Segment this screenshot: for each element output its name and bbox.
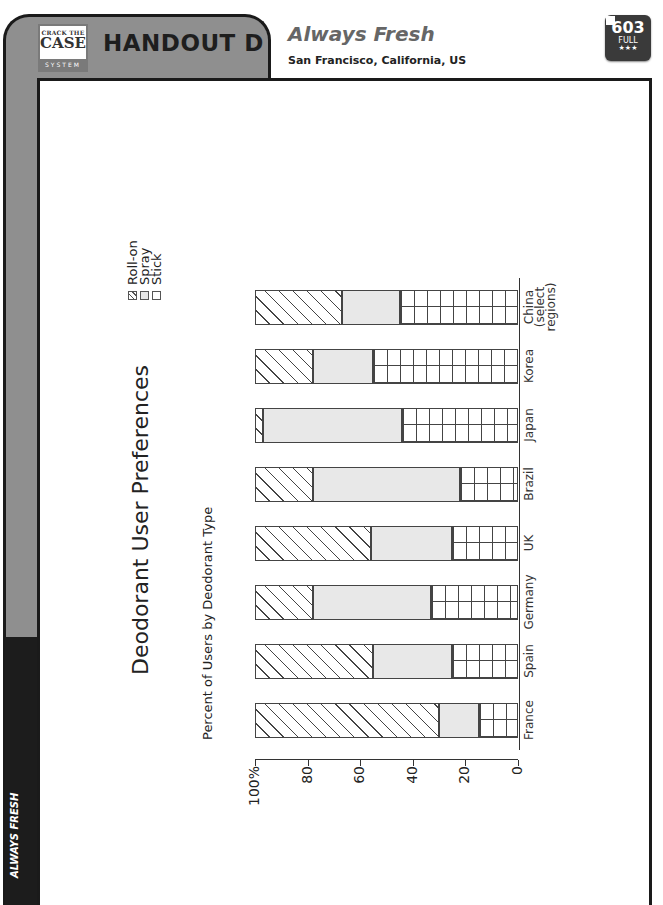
bar-segment-spray [313, 349, 373, 384]
plot-area [255, 278, 518, 750]
x-axis [519, 278, 520, 750]
x-tick-label: Spain [524, 631, 535, 691]
y-tick-label: 20 [456, 766, 472, 806]
bar-segment-spray [342, 290, 400, 325]
crack-the-case-logo: CRACK THE CASE SYSTEM [38, 24, 88, 72]
y-tick-label: 0 [509, 766, 525, 806]
x-tick-label: China(selectregions) [524, 277, 557, 337]
bar-segment-rollon [255, 703, 439, 738]
grid-swatch-icon [152, 291, 161, 300]
legend-item-stick: Stick [150, 240, 162, 300]
bar-segment-stick [400, 290, 518, 325]
bar-segment-rollon [255, 467, 313, 502]
bar-china [255, 290, 518, 325]
bar-segment-stick [460, 467, 518, 502]
hatch-swatch-icon [128, 291, 137, 300]
difficulty-badge: 603 FULL ★★★ [605, 15, 651, 61]
chart-title: Deodorant User Preferences [128, 220, 153, 820]
chart-y-axis-label: Percent of Users by Deodorant Type [200, 507, 215, 740]
x-tick-label: Korea [524, 336, 535, 396]
bar-segment-rollon [255, 408, 263, 443]
badge-corner-icon [606, 16, 615, 25]
x-tick-label: Germany [524, 572, 535, 632]
y-tick-label: 80 [299, 766, 315, 806]
case-title: Always Fresh [288, 22, 435, 46]
bar-segment-rollon [255, 526, 371, 561]
y-tick-label: 100% [246, 766, 262, 806]
x-tick-label: Brazil [524, 454, 535, 514]
logo-line2: CASE [40, 36, 86, 50]
bar-segment-spray [371, 526, 453, 561]
bar-segment-stick [373, 349, 518, 384]
bar-korea [255, 349, 518, 384]
bar-segment-spray [263, 408, 402, 443]
bar-segment-rollon [255, 349, 313, 384]
bar-france [255, 703, 518, 738]
x-tick-label: France [524, 690, 535, 750]
stacked-bar-chart: Deodorant User Preferences Percent of Us… [118, 220, 558, 820]
bar-uk [255, 526, 518, 561]
bar-segment-rollon [255, 644, 373, 679]
badge-stars-icon: ★★★ [605, 45, 651, 52]
bar-segment-rollon [255, 585, 313, 620]
bar-segment-rollon [255, 290, 342, 325]
bar-segment-stick [452, 644, 518, 679]
y-axis [255, 759, 518, 760]
logo-line3: SYSTEM [40, 59, 86, 70]
bar-spain [255, 644, 518, 679]
bar-brazil [255, 467, 518, 502]
bar-segment-spray [313, 585, 431, 620]
bar-germany [255, 585, 518, 620]
chart-legend: Roll-on Spray Stick [126, 240, 162, 300]
sidebar-case-label: ALWAYS FRESH [9, 793, 20, 878]
handout-label: HANDOUT D [103, 30, 264, 56]
y-tick-label: 40 [404, 766, 420, 806]
bar-segment-stick [402, 408, 518, 443]
bar-segment-spray [439, 703, 478, 738]
y-tick-label: 60 [351, 766, 367, 806]
bar-segment-stick [479, 703, 518, 738]
bar-segment-spray [373, 644, 452, 679]
x-tick-label: Japan [524, 395, 535, 455]
x-tick-label: UK [524, 513, 535, 573]
gray-swatch-icon [140, 291, 149, 300]
legend-label: Stick [149, 253, 164, 285]
bar-segment-stick [452, 526, 518, 561]
case-location: San Francisco, California, US [288, 54, 466, 67]
bar-japan [255, 408, 518, 443]
bar-segment-spray [313, 467, 460, 502]
bar-segment-stick [431, 585, 518, 620]
